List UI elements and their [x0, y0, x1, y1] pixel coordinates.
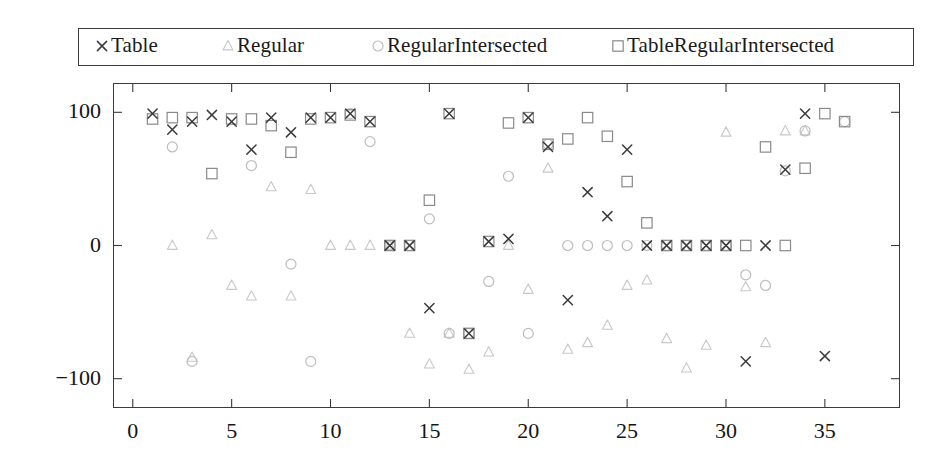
data-point	[167, 142, 177, 152]
data-point	[147, 114, 157, 124]
data-point	[682, 241, 691, 250]
x-tick-label: 10	[291, 420, 371, 442]
data-point	[583, 241, 593, 251]
data-point	[702, 241, 711, 250]
data-point	[820, 108, 830, 118]
y-tick-label: 100	[68, 100, 101, 122]
series-regularintersected	[167, 109, 849, 367]
data-point	[484, 276, 494, 286]
data-point	[642, 218, 652, 228]
data-point	[306, 356, 316, 366]
series-table	[148, 109, 830, 366]
data-point	[227, 117, 236, 126]
data-point	[780, 166, 790, 176]
data-point	[346, 109, 355, 118]
data-point	[484, 237, 493, 246]
data-point	[602, 320, 612, 329]
data-point	[623, 145, 632, 154]
data-point	[622, 241, 632, 251]
data-point	[424, 359, 434, 368]
series-regular	[167, 126, 810, 374]
data-point	[464, 329, 473, 338]
data-point	[326, 113, 335, 122]
data-point	[563, 134, 573, 144]
data-point	[761, 337, 771, 346]
data-point	[583, 188, 592, 197]
data-point	[523, 328, 533, 338]
data-point	[187, 117, 196, 126]
data-point	[246, 114, 256, 124]
data-point	[306, 113, 315, 122]
data-point	[583, 337, 593, 346]
data-point	[800, 109, 809, 118]
data-point	[207, 229, 217, 238]
data-point	[741, 270, 751, 280]
data-point	[405, 328, 415, 337]
data-point	[286, 259, 296, 269]
x-tick-label: 5	[192, 420, 272, 442]
data-point	[365, 137, 375, 147]
data-point	[167, 112, 177, 122]
data-point	[246, 161, 256, 171]
data-point	[286, 128, 295, 137]
data-point	[445, 109, 454, 118]
data-point	[365, 117, 374, 126]
data-point	[741, 357, 750, 366]
data-point	[820, 351, 829, 360]
data-point	[681, 363, 691, 372]
scatter-points-layer	[0, 0, 950, 471]
data-point	[365, 240, 375, 249]
data-point	[524, 113, 533, 122]
data-point	[761, 241, 770, 250]
data-point	[503, 171, 513, 181]
data-point	[207, 168, 217, 178]
data-point	[246, 291, 256, 300]
data-point	[424, 195, 434, 205]
data-point	[563, 344, 573, 353]
data-point	[582, 112, 592, 122]
data-point	[484, 347, 494, 356]
data-point	[345, 240, 355, 249]
data-point	[721, 241, 730, 250]
data-point	[563, 241, 573, 251]
data-point	[523, 284, 533, 293]
data-point	[603, 212, 612, 221]
data-point	[306, 184, 316, 193]
data-point	[168, 125, 177, 134]
data-point	[266, 181, 276, 190]
data-point	[741, 240, 751, 250]
data-point	[306, 114, 316, 124]
x-tick-label: 35	[785, 420, 865, 442]
data-point	[286, 291, 296, 300]
data-point	[760, 142, 770, 152]
data-point	[503, 118, 513, 128]
y-tick-label: −100	[56, 367, 101, 389]
x-tick-label: 30	[686, 420, 766, 442]
data-point	[780, 240, 790, 250]
data-point	[741, 281, 751, 290]
chart-root: TableRegularRegularIntersectedTableRegul…	[0, 0, 950, 471]
x-tick-label: 15	[389, 420, 469, 442]
data-point	[800, 163, 810, 173]
data-point	[405, 241, 414, 250]
data-point	[602, 131, 612, 141]
data-point	[167, 240, 177, 249]
data-point	[761, 280, 771, 290]
data-point	[701, 340, 711, 349]
series-tableregularintersected	[147, 108, 849, 338]
x-tick-label: 0	[93, 420, 173, 442]
data-point	[721, 127, 731, 136]
x-tick-label: 20	[488, 420, 568, 442]
data-point	[622, 176, 632, 186]
data-point	[207, 110, 216, 119]
data-point	[326, 240, 336, 249]
data-point	[464, 364, 474, 373]
data-point	[602, 241, 612, 251]
data-point	[227, 280, 237, 289]
y-tick-label: 0	[90, 234, 101, 256]
data-point	[425, 304, 434, 313]
data-point	[622, 280, 632, 289]
data-point	[662, 241, 671, 250]
data-point	[642, 241, 651, 250]
data-point	[286, 147, 296, 157]
